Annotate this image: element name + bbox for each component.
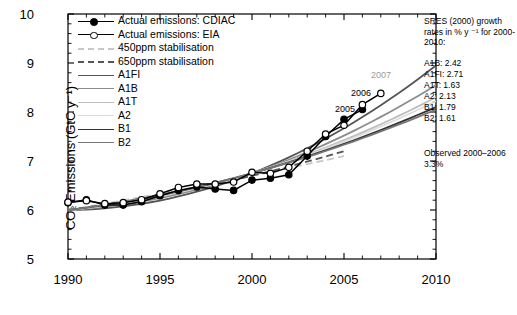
legend-item-a1fi: A1FI bbox=[78, 68, 235, 82]
legend-label-650ppm: 650ppm stabilisation bbox=[118, 55, 214, 69]
legend-label-cdiac: Actual emissions: CDIAC bbox=[118, 14, 235, 28]
legend-label-a2: A2 bbox=[118, 109, 131, 123]
observed-rate-note: Observed 2000–2006 3.3% bbox=[424, 148, 516, 169]
annotation-2005: 2005 bbox=[335, 104, 355, 114]
legend-item-b1: B1 bbox=[78, 122, 235, 136]
legend-key-cdiac bbox=[78, 14, 114, 28]
sres-heading: SRES (2000) growth rates in % y ⁻¹ for 2… bbox=[424, 16, 516, 48]
legend-key-450ppm bbox=[78, 41, 114, 55]
annotation-2006: 2006 bbox=[351, 88, 371, 98]
legend-label-a1t: A1T bbox=[118, 95, 137, 109]
sres-rate-b2: B2: 1.61 bbox=[424, 113, 456, 124]
legend-key-a1b bbox=[78, 82, 114, 96]
legend-label-a1fi: A1FI bbox=[118, 68, 140, 82]
legend-key-a1t bbox=[78, 95, 114, 109]
legend-key-b1 bbox=[78, 122, 114, 136]
legend-label-450ppm: 450ppm stabilisation bbox=[118, 41, 214, 55]
sres-rate-a1t: A1T: 1.63 bbox=[424, 80, 460, 91]
legend-label-b1: B1 bbox=[118, 122, 131, 136]
legend-key-650ppm bbox=[78, 55, 114, 69]
legend-key-a1fi bbox=[78, 68, 114, 82]
sres-rate-a1fi: A1FI: 2.71 bbox=[424, 69, 463, 80]
legend-item-650ppm: 650ppm stabilisation bbox=[78, 55, 235, 69]
annotation-2007: 2007 bbox=[371, 70, 391, 80]
legend-item-a1t: A1T bbox=[78, 95, 235, 109]
legend-label-eia: Actual emissions: EIA bbox=[118, 28, 220, 42]
legend-key-b2 bbox=[78, 136, 114, 150]
legend-item-a2: A2 bbox=[78, 109, 235, 123]
legend-item-cdiac: Actual emissions: CDIAC bbox=[78, 14, 235, 28]
legend-key-a2 bbox=[78, 109, 114, 123]
legend-label-a1b: A1B bbox=[118, 82, 138, 96]
sres-rate-a2: A2: 2.13 bbox=[424, 91, 456, 102]
legend-item-b2: B2 bbox=[78, 136, 235, 150]
sres-rate-b1: B1: 1.79 bbox=[424, 102, 456, 113]
legend-item-a1b: A1B bbox=[78, 82, 235, 96]
chart-legend: Actual emissions: CDIAC Actual emissions… bbox=[78, 14, 235, 149]
legend-item-450ppm: 450ppm stabilisation bbox=[78, 41, 235, 55]
sres-rate-a1b: A1B: 2.42 bbox=[424, 58, 461, 69]
legend-item-eia: Actual emissions: EIA bbox=[78, 28, 235, 42]
legend-label-b2: B2 bbox=[118, 136, 131, 150]
chart-figure: CO₂ Emissions (GtC y⁻¹) 10 9 8 7 6 5 199… bbox=[0, 0, 517, 315]
legend-key-eia bbox=[78, 28, 114, 42]
